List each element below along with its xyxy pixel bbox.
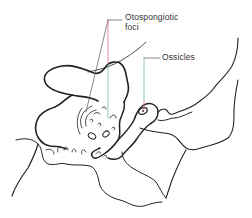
lower-foci-mark: [104, 155, 107, 158]
left-lobe-outline: [36, 95, 72, 149]
ossicle-dot: [142, 110, 144, 112]
label-ossicles: Ossicles: [162, 52, 195, 62]
lower-foci-mark: [72, 149, 76, 152]
lower-mid-contour: [122, 152, 166, 198]
cochlea-arc-2: [85, 110, 96, 126]
focus-oval: [87, 132, 97, 141]
right-bone-lower: [166, 150, 186, 198]
ossicle-right-tube: [158, 38, 238, 114]
focus-mark: [112, 127, 115, 130]
right-bone-outline: [140, 80, 238, 150]
far-left-contour: [12, 144, 38, 196]
leader-line-otospongiotic: [86, 20, 108, 112]
lower-foci-mark: [46, 149, 54, 154]
label-otospongiotic-line1: Otospongiotic: [125, 12, 195, 22]
focus-oval: [102, 130, 111, 138]
ear-anatomy-diagram: [0, 0, 252, 218]
lower-foci-mark: [57, 147, 62, 152]
lower-foci-mark: [81, 150, 86, 154]
focus-mark: [110, 115, 116, 118]
focus-mark: [94, 113, 100, 115]
focus-mark: [102, 107, 106, 109]
label-otospongiotic-line2: foci: [125, 22, 195, 32]
label-otospongiotic-foci: Otospongiotic foci: [125, 12, 195, 32]
cochlea-arc-3: [77, 108, 82, 134]
focus-mark: [98, 123, 101, 126]
outer-ear-loop-outline: [44, 62, 128, 102]
focus-mark: [90, 119, 93, 122]
lower-foci-mark: [96, 152, 101, 154]
